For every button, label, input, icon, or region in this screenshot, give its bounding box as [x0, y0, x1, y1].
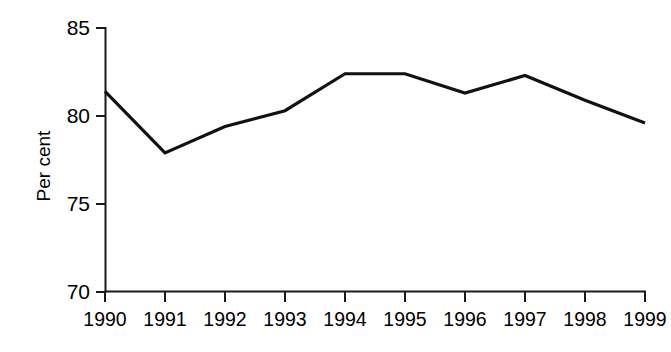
x-tick-label-1992: 1992	[203, 308, 246, 330]
y-tick-labels: 85 80 75 70	[67, 16, 90, 303]
x-tick-labels: 1990 1991 1992 1993 1994 1995 1996 1997 …	[83, 308, 666, 330]
x-tick-label-1990: 1990	[83, 308, 127, 330]
y-tick-label-80: 80	[67, 104, 90, 127]
y-axis-title: Per cent	[33, 130, 54, 201]
x-tick-label-1998: 1998	[563, 308, 606, 330]
y-tick-label-70: 70	[67, 280, 90, 303]
y-tick-label-85: 85	[67, 16, 90, 39]
x-tick-label-1994: 1994	[323, 308, 367, 330]
x-tick-label-1993: 1993	[263, 308, 306, 330]
x-tick-marks	[105, 292, 645, 302]
x-tick-label-1991: 1991	[143, 308, 186, 330]
x-tick-label-1999: 1999	[623, 308, 666, 330]
x-tick-label-1996: 1996	[443, 308, 486, 330]
chart-canvas: 85 80 75 70 1990 1991 1992 1993 1994 199…	[0, 0, 671, 352]
line-chart: 85 80 75 70 1990 1991 1992 1993 1994 199…	[0, 0, 671, 352]
x-tick-label-1995: 1995	[383, 308, 427, 330]
data-series-line	[105, 74, 645, 153]
x-tick-label-1997: 1997	[503, 308, 546, 330]
y-tick-label-75: 75	[67, 192, 90, 215]
